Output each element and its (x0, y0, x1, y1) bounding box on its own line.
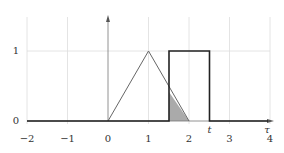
tau-label: τ (264, 124, 270, 135)
t-label: t (207, 124, 212, 135)
grid (27, 17, 270, 124)
x-tick: 3 (226, 133, 232, 144)
convolution-diagram: −2 −1 0 1 2 3 4 0 1 t τ (0, 0, 284, 153)
y-axis-arrow-icon (106, 15, 110, 22)
x-tick: 2 (186, 133, 192, 144)
x-tick: −1 (60, 133, 75, 144)
plot: −2 −1 0 1 2 3 4 0 1 t τ (0, 0, 284, 153)
x-tick: 0 (105, 133, 111, 144)
rectangle-function (27, 51, 268, 121)
y-tick-0: 0 (13, 115, 19, 126)
x-tick: −2 (20, 133, 35, 144)
x-axis-arrow-icon (267, 119, 274, 123)
y-tick-1: 1 (13, 45, 19, 56)
x-tick: 1 (145, 133, 151, 144)
